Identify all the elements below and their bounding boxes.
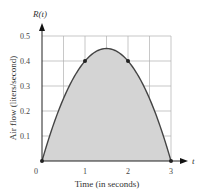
y-axis-arrow-icon: [39, 23, 45, 31]
x-tick-labels: 0123: [34, 167, 173, 176]
x-tick-label: 2: [126, 167, 130, 176]
y-tick-label: 0.4: [20, 57, 30, 66]
x-tick-label: 1: [83, 167, 87, 176]
data-point: [169, 159, 173, 163]
x-axis-arrow-icon: [180, 158, 188, 164]
y-tick-label: 0.3: [20, 82, 30, 91]
y-axis-label: Air flow (liters/second): [8, 56, 18, 140]
y-tick-label: 0.1: [20, 132, 30, 141]
data-point: [83, 59, 87, 63]
y-tick-label: 0.5: [20, 32, 30, 41]
x-axis-symbol: t: [192, 156, 195, 166]
y-tick-labels: 0.10.20.30.40.5: [20, 32, 30, 141]
x-axis-label: Time (in seconds): [75, 179, 140, 189]
x-tick-label: 0: [34, 167, 38, 176]
data-point: [126, 59, 130, 63]
y-tick-label: 0.2: [20, 107, 30, 116]
x-tick-label: 3: [169, 167, 173, 176]
function-label: R(t): [32, 9, 47, 19]
air-flow-chart: 0.10.20.30.40.5 0123 R(t) t Time (in sec…: [0, 0, 203, 194]
data-point: [40, 159, 44, 163]
